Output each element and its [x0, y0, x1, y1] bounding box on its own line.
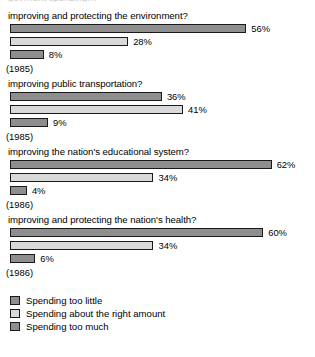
- bar-row: 28%: [0, 37, 315, 48]
- bar-0: [10, 92, 162, 101]
- bar-row: 34%: [0, 173, 315, 184]
- group-year-label: (1985): [0, 131, 315, 143]
- bar-row: 8%: [0, 50, 315, 61]
- bar-value-label: 9%: [53, 117, 67, 128]
- legend-item-label: Spending too much: [26, 321, 109, 332]
- bar-value-label: 4%: [32, 185, 46, 196]
- group-year-label: (1985): [0, 63, 315, 75]
- legend-swatch-too-little: [10, 296, 20, 305]
- group-question-label: improving the nation's educational syste…: [0, 146, 315, 158]
- legend-item: Spending about the right amount: [0, 307, 315, 320]
- bar-row: 62%: [0, 160, 315, 171]
- legend-item-label: Spending too little: [26, 295, 102, 306]
- bar-row: 9%: [0, 118, 315, 129]
- bar-2: [10, 254, 35, 263]
- legend-item: Spending too much: [0, 320, 315, 333]
- bar-row: 4%: [0, 186, 315, 197]
- chart-legend: Spending too littleSpending about the ri…: [0, 294, 315, 333]
- group-question-label: improving and protecting the nation's he…: [0, 214, 315, 226]
- bar-1: [10, 241, 153, 250]
- bar-1: [10, 37, 128, 46]
- chart-group: improving and protecting the nation's he…: [0, 214, 315, 279]
- group-question-label: improving public transportation?: [0, 78, 315, 90]
- clipped-header-text: gov…ent spending…: [8, 0, 308, 2]
- bar-value-label: 56%: [251, 23, 270, 34]
- legend-swatch-too-much: [10, 322, 20, 331]
- bar-1: [10, 105, 183, 114]
- bar-row: 36%: [0, 92, 315, 103]
- group-year-label: (1986): [0, 199, 315, 211]
- bar-value-label: 28%: [133, 36, 152, 47]
- bar-value-label: 34%: [158, 172, 177, 183]
- bar-row: 60%: [0, 228, 315, 239]
- bar-row: 34%: [0, 241, 315, 252]
- chart-group: improving public transportation?36%41%9%…: [0, 78, 315, 143]
- bar-1: [10, 173, 153, 182]
- bar-0: [10, 228, 263, 237]
- chart-group: improving the nation's educational syste…: [0, 146, 315, 211]
- bar-value-label: 34%: [158, 240, 177, 251]
- bar-value-label: 6%: [40, 253, 54, 264]
- group-year-label: (1986): [0, 267, 315, 279]
- group-question-label: improving and protecting the environment…: [0, 10, 315, 22]
- legend-item: Spending too little: [0, 294, 315, 307]
- bar-row: 6%: [0, 254, 315, 265]
- legend-swatch-right-amount: [10, 309, 20, 318]
- grouped-bar-chart: improving and protecting the environment…: [0, 10, 315, 282]
- bar-value-label: 60%: [268, 227, 287, 238]
- bar-2: [10, 50, 44, 59]
- legend-item-label: Spending about the right amount: [26, 308, 165, 319]
- bar-row: 56%: [0, 24, 315, 35]
- bar-value-label: 8%: [49, 49, 63, 60]
- bar-2: [10, 186, 27, 195]
- bar-value-label: 62%: [277, 159, 296, 170]
- bar-row: 41%: [0, 105, 315, 116]
- bar-0: [10, 24, 246, 33]
- bar-value-label: 36%: [167, 91, 186, 102]
- chart-group: improving and protecting the environment…: [0, 10, 315, 75]
- bar-2: [10, 118, 48, 127]
- bar-0: [10, 160, 272, 169]
- bar-value-label: 41%: [188, 104, 207, 115]
